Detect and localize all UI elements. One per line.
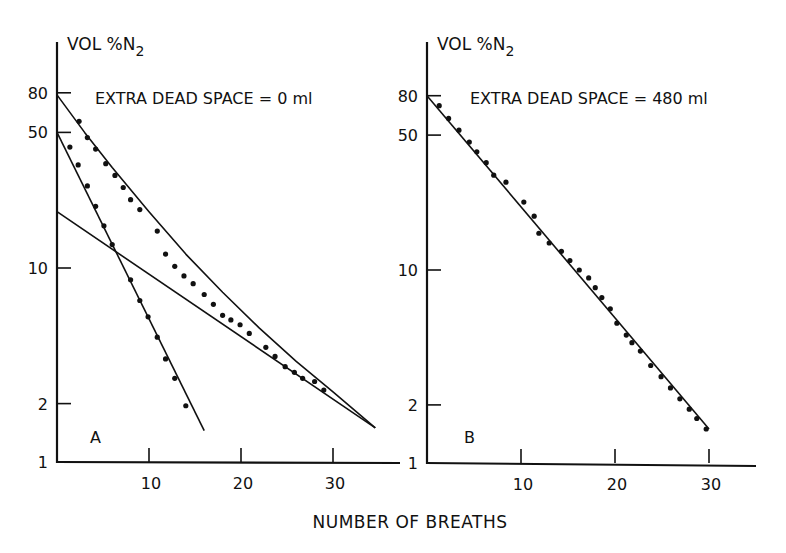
y-tick-label: 10 [398, 261, 418, 280]
fit-line [427, 96, 709, 429]
y-tick-label: 1 [408, 454, 418, 473]
x-axis-title-text: NUMBER OF BREATHS [313, 512, 508, 532]
x-axis-line [56, 462, 400, 463]
y-tick-label: 80 [398, 87, 418, 106]
data-point [228, 317, 233, 322]
y-axis-label: VOL %N2 [67, 34, 144, 59]
data-point [586, 275, 591, 280]
fit-line [57, 132, 204, 430]
data-point [211, 302, 216, 307]
x-tick-label: 20 [607, 475, 627, 494]
data-point [85, 183, 90, 188]
data-point [247, 331, 252, 336]
y-tick-label: 2 [408, 396, 418, 415]
data-point [181, 273, 186, 278]
data-point [191, 281, 196, 286]
data-point [202, 292, 207, 297]
data-point [577, 267, 582, 272]
fit-line [57, 95, 375, 428]
y-tick-label: 2 [38, 395, 48, 414]
data-point [163, 251, 168, 256]
data-point [312, 379, 317, 384]
data-point [128, 197, 133, 202]
data-point [67, 144, 72, 149]
y-tick-label: 10 [28, 259, 48, 278]
x-axis-line [426, 463, 756, 466]
data-point [536, 231, 541, 236]
panel-b-chart: 12105080102030VOL %N2EXTRA DEAD SPACE = … [398, 34, 756, 494]
data-point [137, 207, 142, 212]
data-point [593, 285, 598, 290]
y-tick-label: 50 [398, 126, 418, 145]
fit-line [57, 212, 375, 428]
y-tick-label: 1 [38, 453, 48, 472]
y-axis-label: VOL %N2 [437, 34, 514, 59]
panel-letter: B [464, 428, 475, 447]
data-point [263, 345, 268, 350]
panel-letter: A [90, 428, 101, 447]
panel-title: EXTRA DEAD SPACE = 480 ml [470, 89, 708, 108]
data-point [183, 403, 188, 408]
data-point [532, 214, 537, 219]
y-tick-label: 80 [28, 84, 48, 103]
x-axis-title: NUMBER OF BREATHS [0, 512, 786, 532]
data-point [76, 162, 81, 167]
data-point [172, 264, 177, 269]
data-point [648, 363, 653, 368]
panel-a-chart: 12105080102030VOL %N2EXTRA DEAD SPACE = … [28, 34, 400, 493]
y-tick-label: 50 [28, 123, 48, 142]
data-point [155, 228, 160, 233]
data-point [237, 322, 242, 327]
nitrogen-washout-figure: 12105080102030VOL %N2EXTRA DEAD SPACE = … [0, 0, 786, 553]
data-point [503, 180, 508, 185]
data-point [521, 199, 526, 204]
x-tick-label: 10 [141, 474, 161, 493]
x-tick-label: 10 [513, 475, 533, 494]
x-tick-label: 30 [325, 474, 345, 493]
x-tick-label: 20 [233, 474, 253, 493]
data-point [220, 313, 225, 318]
x-tick-label: 30 [701, 475, 721, 494]
data-point [121, 185, 126, 190]
panel-title: EXTRA DEAD SPACE = 0 ml [95, 89, 312, 108]
